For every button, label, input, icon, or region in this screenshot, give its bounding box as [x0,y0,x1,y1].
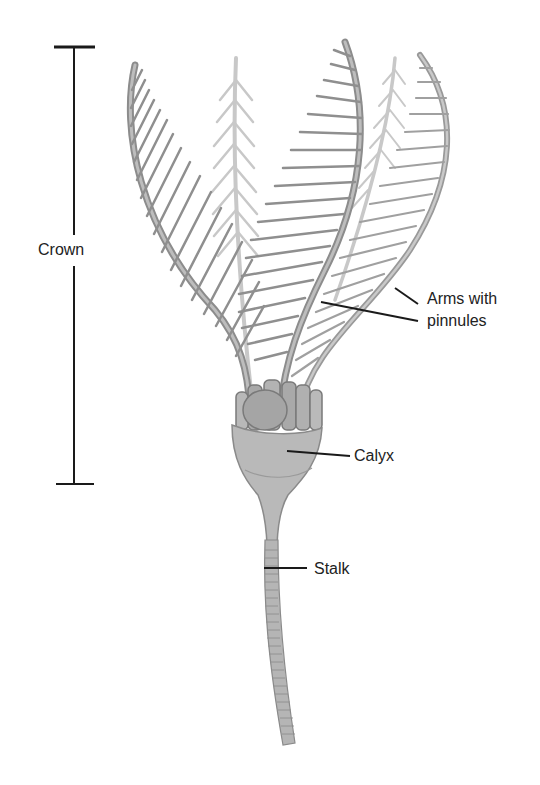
stalk [265,540,295,745]
crinoid-diagram: Crown Arms with pinnules Calyx Stalk [0,0,540,785]
arm-back-right [335,58,405,300]
crinoid-illustration [0,0,540,785]
arms-leader-1 [395,288,418,304]
arm-bases [236,380,322,430]
arms-label-line2: pinnules [427,311,487,330]
crown-bracket [54,47,95,484]
arms-label-line1: Arms with [427,289,497,308]
crown-label: Crown [38,240,84,259]
calyx-label: Calyx [354,446,394,465]
arm-center [239,42,362,410]
calyx [232,425,322,545]
stalk-label: Stalk [314,559,350,578]
